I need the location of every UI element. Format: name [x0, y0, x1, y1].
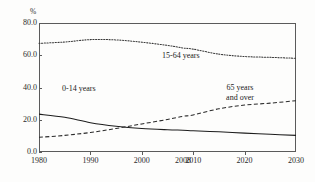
chart-screenshot: % 0.020.040.060.080.0 198019902000200820… — [0, 0, 315, 182]
y-axis-tick-mark — [39, 55, 42, 56]
x-axis-tick-mark — [193, 152, 194, 155]
y-axis-tick-mark — [39, 88, 42, 89]
series-line-65-years-and-over — [39, 101, 296, 138]
x-axis-tick-mark — [142, 152, 143, 155]
y-axis-tick-mark — [39, 23, 42, 24]
series-annotation-65-line1: 65 years — [227, 83, 254, 92]
y-axis-tick-mark — [39, 152, 42, 153]
x-axis-tick-label: 2020 — [237, 157, 253, 165]
y-axis-tick-mark — [39, 120, 42, 121]
series-annotation-0-14-years: 0-14 years — [62, 84, 96, 94]
x-axis-tick-mark — [245, 152, 246, 155]
x-axis-tick-label: 2000 — [134, 157, 150, 165]
x-axis-tick-label: 2010 — [185, 157, 201, 165]
series-annotation-65-line2: and over — [226, 93, 254, 102]
x-axis-tick-mark — [90, 152, 91, 155]
series-annotation-15-64-years: 15-64 years — [162, 51, 200, 61]
series-annotation-65-years-and-over: 65 years and over — [226, 83, 254, 102]
x-axis-tick-label: 2030 — [288, 157, 304, 165]
series-line-0-14-years — [39, 114, 296, 135]
x-axis-tick-label: 1990 — [82, 157, 98, 165]
x-axis-tick-label: 1980 — [31, 157, 47, 165]
